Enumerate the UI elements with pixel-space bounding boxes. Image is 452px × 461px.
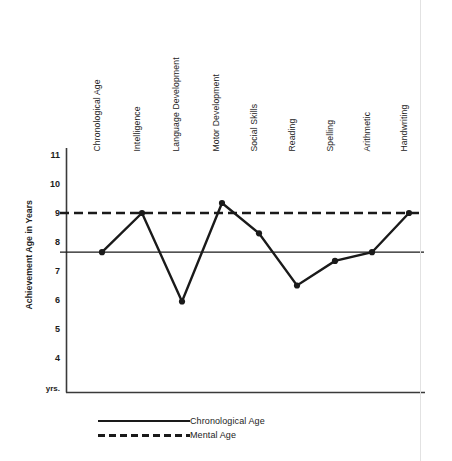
page-scan-edge	[420, 0, 421, 461]
legend: Chronological Age Mental Age	[98, 414, 358, 442]
data-point-reading	[294, 282, 300, 288]
achievement-age-profile-chart: Chronological Age Intelligence Language …	[0, 0, 452, 461]
data-point-handwriting	[406, 210, 412, 216]
legend-item-mental-age: Mental Age	[98, 428, 358, 442]
plot-area	[0, 0, 452, 461]
data-point-motor-development	[219, 200, 225, 206]
legend-label-chronological-age: Chronological Age	[190, 416, 265, 426]
data-point-language-development	[179, 298, 185, 304]
data-point-spelling	[332, 258, 338, 264]
legend-item-chronological-age: Chronological Age	[98, 414, 358, 428]
data-point-social-skills	[256, 230, 262, 236]
legend-label-mental-age: Mental Age	[190, 430, 236, 440]
legend-swatch-solid-line-icon	[98, 416, 190, 426]
data-point-intelligence	[139, 210, 145, 216]
data-point-chronological-age	[99, 249, 105, 255]
legend-swatch-dashed-line-icon	[98, 430, 190, 440]
data-point-arithmetic	[369, 249, 375, 255]
